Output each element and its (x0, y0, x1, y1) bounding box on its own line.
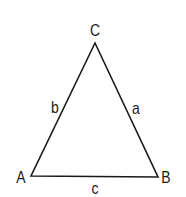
side-label-a: a (132, 100, 140, 117)
side-label-b: b (51, 99, 59, 116)
side-label-c: c (92, 180, 99, 197)
vertex-label-a: A (16, 169, 25, 186)
triangle-diagram: C A B b a c (0, 0, 186, 196)
vertex-label-c: C (90, 22, 100, 39)
vertex-label-b: B (161, 169, 170, 186)
